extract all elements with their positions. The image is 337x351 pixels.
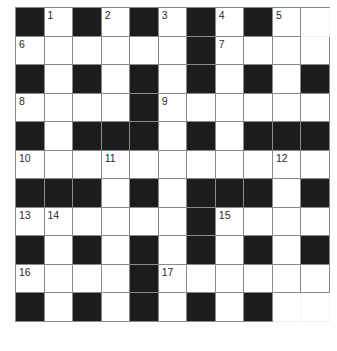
answer-cell[interactable]: 7 [216, 37, 245, 66]
black-square [244, 293, 273, 322]
answer-cell[interactable]: 14 [45, 208, 74, 237]
black-square [130, 94, 159, 123]
answer-cell[interactable] [216, 151, 245, 180]
answer-cell[interactable]: 3 [159, 8, 188, 37]
answer-cell[interactable]: 6 [16, 37, 45, 66]
answer-cell[interactable] [159, 37, 188, 66]
answer-cell[interactable] [159, 179, 188, 208]
answer-cell[interactable] [45, 37, 74, 66]
answer-cell[interactable] [273, 265, 302, 294]
answer-cell[interactable] [45, 94, 74, 123]
answer-cell[interactable] [244, 208, 273, 237]
answer-cell[interactable] [244, 94, 273, 123]
answer-cell[interactable] [130, 151, 159, 180]
answer-cell[interactable]: 2 [102, 8, 131, 37]
answer-cell[interactable] [159, 151, 188, 180]
answer-cell[interactable] [187, 94, 216, 123]
answer-cell[interactable] [244, 151, 273, 180]
answer-cell[interactable]: 9 [159, 94, 188, 123]
answer-cell[interactable] [130, 208, 159, 237]
answer-cell[interactable] [102, 208, 131, 237]
answer-cell[interactable] [73, 208, 102, 237]
answer-cell[interactable] [45, 236, 74, 265]
answer-cell[interactable] [102, 293, 131, 322]
black-square [73, 293, 102, 322]
answer-cell[interactable] [159, 293, 188, 322]
answer-cell[interactable] [301, 265, 330, 294]
clue-number: 5 [276, 10, 282, 21]
answer-cell[interactable] [216, 65, 245, 94]
answer-cell[interactable] [301, 37, 330, 66]
answer-cell[interactable]: 8 [16, 94, 45, 123]
answer-cell[interactable] [73, 94, 102, 123]
black-square [187, 236, 216, 265]
answer-cell[interactable] [45, 122, 74, 151]
answer-cell[interactable] [187, 151, 216, 180]
clue-number: 8 [19, 96, 25, 107]
answer-cell[interactable] [273, 236, 302, 265]
answer-cell[interactable] [102, 236, 131, 265]
answer-cell[interactable] [102, 37, 131, 66]
black-square [102, 122, 131, 151]
answer-cell[interactable]: 15 [216, 208, 245, 237]
black-square [16, 65, 45, 94]
answer-cell[interactable] [45, 293, 74, 322]
answer-cell[interactable] [73, 265, 102, 294]
answer-cell[interactable] [301, 208, 330, 237]
answer-cell[interactable] [301, 8, 330, 37]
black-square [216, 179, 245, 208]
answer-cell[interactable] [216, 122, 245, 151]
answer-cell[interactable] [216, 94, 245, 123]
answer-cell[interactable]: 12 [273, 151, 302, 180]
answer-cell[interactable] [301, 151, 330, 180]
answer-cell[interactable] [273, 65, 302, 94]
black-square [73, 122, 102, 151]
answer-cell[interactable]: 11 [102, 151, 131, 180]
answer-cell[interactable] [73, 151, 102, 180]
black-square [187, 8, 216, 37]
black-square [16, 236, 45, 265]
black-square [73, 236, 102, 265]
answer-cell[interactable] [102, 265, 131, 294]
answer-cell[interactable]: 17 [159, 265, 188, 294]
answer-cell[interactable]: 13 [16, 208, 45, 237]
answer-cell[interactable] [273, 94, 302, 123]
answer-cell[interactable] [73, 37, 102, 66]
answer-cell[interactable] [216, 293, 245, 322]
answer-cell[interactable] [187, 265, 216, 294]
answer-cell[interactable] [45, 151, 74, 180]
clue-number: 16 [19, 267, 31, 278]
answer-cell[interactable] [45, 65, 74, 94]
answer-cell[interactable] [159, 122, 188, 151]
answer-cell[interactable] [273, 208, 302, 237]
answer-cell[interactable]: 1 [45, 8, 74, 37]
answer-cell[interactable] [301, 94, 330, 123]
answer-cell[interactable]: 10 [16, 151, 45, 180]
answer-cell[interactable] [102, 94, 131, 123]
black-square [244, 8, 273, 37]
answer-cell[interactable] [244, 37, 273, 66]
clue-number: 1 [48, 10, 54, 21]
answer-cell[interactable]: 5 [273, 8, 302, 37]
black-square [301, 179, 330, 208]
answer-cell[interactable] [216, 265, 245, 294]
answer-cell[interactable] [159, 208, 188, 237]
black-square [130, 236, 159, 265]
answer-cell[interactable] [102, 65, 131, 94]
answer-cell[interactable] [130, 37, 159, 66]
answer-cell[interactable] [244, 265, 273, 294]
answer-cell[interactable] [273, 293, 302, 322]
answer-cell[interactable] [159, 65, 188, 94]
clue-number: 2 [105, 10, 111, 21]
answer-cell[interactable] [102, 179, 131, 208]
answer-cell[interactable]: 16 [16, 265, 45, 294]
black-square [130, 122, 159, 151]
answer-cell[interactable] [301, 293, 330, 322]
answer-cell[interactable]: 4 [216, 8, 245, 37]
answer-cell[interactable] [216, 236, 245, 265]
answer-cell[interactable] [159, 236, 188, 265]
answer-cell[interactable] [273, 179, 302, 208]
black-square [73, 8, 102, 37]
answer-cell[interactable] [273, 37, 302, 66]
answer-cell[interactable] [45, 265, 74, 294]
